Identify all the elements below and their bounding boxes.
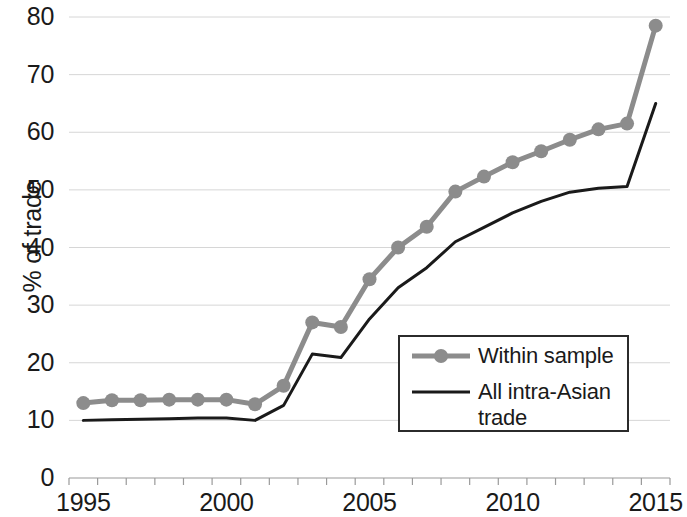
legend-item-within-sample: Within sample [410, 343, 614, 369]
legend-item-all-intra-asian-trade: All intra-Asian trade [410, 379, 611, 431]
data-point-marker [620, 117, 634, 131]
data-point-marker [105, 393, 119, 407]
data-point-marker [420, 220, 434, 234]
x-axis-ticks-group [69, 478, 670, 485]
legend-marker-line-icon [410, 343, 472, 369]
y-axis-tick-label: 10 [8, 405, 54, 434]
data-point-marker [649, 19, 663, 33]
data-point-marker [448, 185, 462, 199]
y-axis-tick-label: 60 [8, 117, 54, 146]
data-point-marker [219, 393, 233, 407]
y-axis-tick-label: 30 [8, 290, 54, 319]
data-point-marker [506, 155, 520, 169]
data-point-marker [305, 315, 319, 329]
chart-legend: Within sample All intra-Asian trade [398, 335, 629, 432]
y-axis-tick-label: 20 [8, 348, 54, 377]
data-point-marker [248, 397, 262, 411]
y-axis-tick-label: 40 [8, 233, 54, 262]
x-axis-tick-label: 2010 [473, 488, 553, 517]
data-point-marker [76, 396, 90, 410]
data-point-marker [563, 133, 577, 147]
y-axis-tick-label: 80 [8, 2, 54, 31]
x-axis-tick-label: 2005 [330, 488, 410, 517]
y-axis-tick-label: 70 [8, 60, 54, 89]
legend-label: All intra-Asian trade [478, 379, 611, 431]
data-point-marker [334, 320, 348, 334]
data-point-marker [477, 170, 491, 184]
data-point-marker [191, 393, 205, 407]
data-point-marker [591, 122, 605, 136]
x-axis-tick-label: 2000 [186, 488, 266, 517]
legend-solid-line-icon [410, 379, 472, 405]
data-point-marker [534, 144, 548, 158]
legend-label: Within sample [478, 343, 614, 369]
y-axis-tick-label: 50 [8, 175, 54, 204]
data-point-marker [162, 393, 176, 407]
x-axis-tick-label: 1995 [43, 488, 123, 517]
data-point-marker [363, 272, 377, 286]
data-point-marker [277, 379, 291, 393]
data-point-marker [391, 241, 405, 255]
data-point-marker [134, 393, 148, 407]
x-axis-tick-label: 2015 [616, 488, 687, 517]
